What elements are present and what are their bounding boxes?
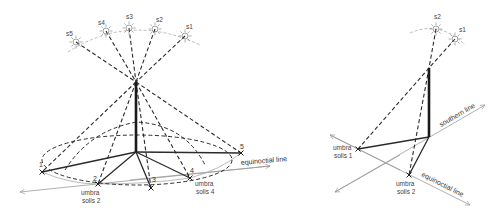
umbra-solis-2-line2: solis 2	[82, 197, 101, 204]
sun-label-s2: s2	[156, 16, 163, 23]
point-label-5: 5	[240, 143, 244, 150]
point-label-1: 1	[39, 161, 43, 168]
sun-label-s1: s1	[186, 23, 193, 30]
sun-label-s3: s3	[126, 13, 133, 20]
point-label-2: 2	[93, 175, 97, 182]
sun-label-s5: s5	[66, 30, 73, 37]
left-figure: s5 s4 s3 s2 s1 1 2 3 4 5 umbra solis 2 u…	[20, 13, 287, 204]
southern-line-label: southern line	[438, 102, 476, 128]
sun-label-s4: s4	[98, 19, 105, 26]
gnomon-diagram: s5 s4 s3 s2 s1 1 2 3 4 5 umbra solis 2 u…	[0, 0, 500, 215]
point-label-4: 4	[190, 167, 194, 174]
equinoctial-line-label-right: equinoctial line	[420, 171, 465, 199]
umbra-solis-2-line1: umbra	[81, 189, 100, 196]
umbra-solis-4-line1: umbra	[195, 180, 214, 187]
umbra-solis-4-line2: solis 4	[196, 188, 215, 195]
umbra-solis-1-line1: umbra	[333, 144, 352, 151]
right-figure: s2 s1 umbra solis 1 umbra solis 2 southe…	[330, 13, 485, 205]
umbra-solis-1-line2: solis 1	[334, 152, 353, 159]
sun-label-s2-right: s2	[434, 13, 441, 20]
umbra-solis-2-right-line1: umbra	[396, 180, 415, 187]
equinoctial-line-label: equinoctial line	[240, 155, 287, 167]
sun-label-s1-right: s1	[459, 26, 466, 33]
point-label-3: 3	[152, 176, 156, 183]
umbra-solis-2-right-line2: solis 2	[397, 188, 416, 195]
